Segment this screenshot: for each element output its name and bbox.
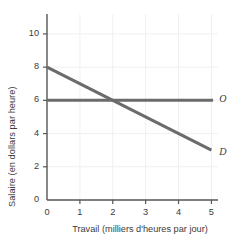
- x-tick-label: 0: [40, 207, 54, 217]
- y-tick-label: 2: [25, 161, 39, 171]
- x-tick-label: 3: [139, 207, 153, 217]
- x-tick-label: 2: [106, 207, 120, 217]
- labour-market-chart: Salaire (en dollars par heure) Travail (…: [0, 0, 233, 243]
- curve-d: [47, 67, 211, 150]
- gridlines: [47, 14, 218, 200]
- x-tick-label: 5: [204, 207, 218, 217]
- x-tick-label: 1: [73, 207, 87, 217]
- y-tick-label: 8: [25, 61, 39, 71]
- curve-label-o: O: [219, 93, 226, 104]
- y-tick-label: 4: [25, 128, 39, 138]
- series-lines: [47, 67, 213, 150]
- y-tick-label: 6: [25, 94, 39, 104]
- axes: [47, 14, 218, 200]
- y-tick-label: 10: [25, 28, 39, 38]
- y-tick-label: 0: [25, 194, 39, 204]
- x-tick-label: 4: [172, 207, 186, 217]
- curve-label-d: D: [219, 146, 226, 157]
- tick-marks: [43, 34, 211, 204]
